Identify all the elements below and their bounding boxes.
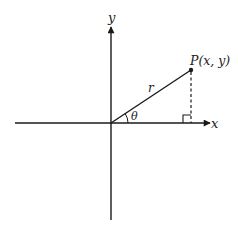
x-axis-label: x [211, 116, 219, 131]
radius-line [111, 70, 191, 123]
y-axis-label: y [107, 10, 116, 25]
point-p [189, 68, 193, 72]
angle-label: θ [131, 110, 138, 123]
radius-label: r [148, 81, 155, 95]
point-label: P(x, y) [189, 53, 230, 68]
right-angle-marker [183, 115, 191, 123]
diagram-canvas: y x P(x, y) r θ [0, 0, 238, 231]
angle-arc [125, 114, 128, 123]
